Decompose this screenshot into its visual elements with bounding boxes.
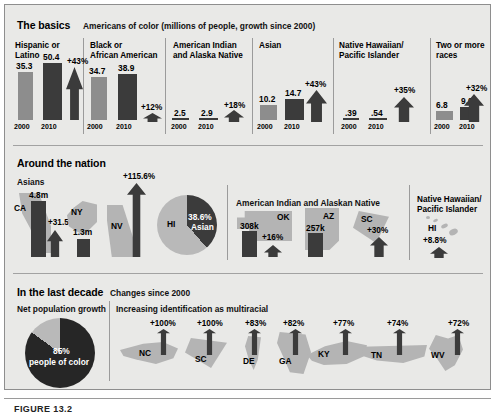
year-label-2010: 2010 (368, 123, 384, 130)
pie-pct-people-of-color: 85% (53, 346, 70, 356)
pie-share-value-hi: 38.6% (188, 212, 212, 222)
group-title-black-line2: African American (90, 51, 158, 60)
divider (409, 185, 410, 260)
bar-hispanic-2010 (43, 63, 62, 120)
state-shape-hi-island-4 (448, 227, 459, 236)
value-hispanic-2000: 35.3 (16, 61, 32, 71)
value-asian-2010: 14.7 (285, 88, 301, 98)
growth-asian: +43% (305, 80, 326, 89)
growth-nhpi: +35% (394, 86, 415, 95)
year-label-2000: 2000 (14, 123, 30, 130)
state-label-nv: NV (111, 221, 123, 231)
divider (333, 38, 334, 134)
state-shape-hi-island-1 (426, 216, 430, 219)
group-title-black-line1: Black or (90, 41, 122, 50)
state-label-az: AZ (323, 211, 334, 221)
year-label-2010: 2010 (41, 123, 57, 130)
arrow-black-growth (143, 113, 162, 122)
bar-ca-asians (31, 201, 46, 257)
year-label-2010: 2010 (284, 123, 300, 130)
decade-band-subtitle: Changes since 2000 (110, 288, 190, 298)
state-shape-nv (107, 205, 137, 257)
group-title-two-or-more: Two or more races (436, 41, 498, 60)
group-title-aian: American Indian and Alaska Native (173, 41, 255, 60)
growth-nv-asians: +115.6% (123, 172, 155, 181)
group-title-black: Black or African American (90, 41, 168, 60)
value-aian-2010: 2.9 (201, 108, 213, 118)
nhpi-nation-label-line2: Pacific Islander (417, 205, 477, 214)
growth-ok-aian: +16% (262, 233, 283, 242)
state-shape-ky (307, 341, 367, 365)
band-divider (13, 273, 483, 274)
value-ok-aian: 308k (240, 221, 259, 231)
bar-black-2010 (118, 74, 137, 120)
value-ny-asians: 1.3m (73, 227, 92, 237)
bar-hispanic-2000 (18, 72, 33, 120)
value-nhpi-2000: .39 (345, 108, 357, 118)
nation-band-title: Around the nation (17, 157, 106, 169)
bar-ny-asians (77, 239, 90, 257)
value-black-2000: 34.7 (89, 66, 105, 76)
group-title-nhpi-line1: Native Hawaiian/ (339, 41, 404, 50)
growth-ga: +82% (283, 319, 304, 328)
state-label-ok: OK (277, 212, 290, 222)
group-title-aian-line1: American Indian (173, 41, 237, 50)
group-title-asian: Asian (259, 41, 281, 51)
year-label-2000: 2000 (341, 123, 357, 130)
state-label-tn: TN (371, 350, 382, 360)
year-label-2000: 2000 (171, 123, 187, 130)
state-label-wv: WV (431, 350, 445, 360)
value-ca-asians: 4.8m (29, 190, 48, 200)
state-label-ga: GA (279, 356, 292, 366)
growth-nc: +100% (150, 319, 176, 328)
value-two-or-more-2000: 6.8 (436, 100, 448, 110)
growth-black: +12% (141, 103, 162, 112)
bar-asian-2010 (285, 99, 304, 120)
arrow-hispanic-growth (66, 67, 83, 120)
divider (109, 301, 110, 381)
growth-two-or-more: +32% (466, 84, 487, 93)
year-label-2000: 2000 (87, 123, 103, 130)
year-label-2010: 2010 (116, 123, 132, 130)
caption-divider (4, 398, 491, 399)
state-label-sc-multiracial: SC (195, 354, 207, 364)
pie-label-people-of-color: people of color (29, 357, 89, 367)
bar-two-or-more-2000 (436, 111, 453, 120)
growth-tn: +74% (387, 319, 408, 328)
arrow-aian-growth (224, 110, 244, 122)
state-label-de: DE (243, 356, 255, 366)
growth-sc-multiracial: +100% (197, 319, 223, 328)
growth-wv: +72% (448, 319, 469, 328)
state-label-hi-nhpi: HI (428, 223, 436, 233)
net-growth-label: Net population growth (17, 304, 106, 314)
infographic-figure: The basics Americans of color (millions … (4, 4, 491, 390)
bar-black-2000 (91, 77, 107, 120)
nhpi-nation-label-line1: Native Hawaiian/ (417, 195, 482, 204)
band-divider (13, 145, 483, 146)
growth-hi-nhpi: +8.8% (423, 236, 446, 245)
bar-aian-2010 (199, 118, 218, 120)
nhpi-nation-label: Native Hawaiian/ Pacific Islander (417, 195, 491, 214)
bar-nhpi-2000 (343, 118, 359, 120)
pie-share-label-hi: Asian (191, 222, 214, 232)
figure-caption: FIGURE 13.2 (14, 404, 72, 414)
arrow-asian-growth (306, 90, 327, 122)
growth-aian: +18% (224, 101, 245, 110)
basics-band-title: The basics (17, 19, 70, 31)
state-label-sc: SC (361, 214, 373, 224)
year-label-2010: 2010 (459, 123, 475, 130)
group-title-nhpi-line2: Pacific Islander (339, 51, 399, 60)
arrow-nhpi-growth (394, 97, 414, 122)
year-label-2000: 2000 (434, 123, 450, 130)
bar-nhpi-2010 (369, 118, 387, 120)
aian-nation-label: American Indian and Alaskan Native (236, 198, 380, 208)
basics-band-subtitle: Americans of color (millions of people, … (83, 21, 315, 31)
state-label-nc: NC (139, 348, 151, 358)
growth-de: +83% (245, 319, 266, 328)
year-label-2010: 2010 (198, 123, 214, 130)
growth-sc-aian: +30% (367, 226, 388, 235)
asians-label: Asians (17, 177, 44, 187)
value-nhpi-2010: .54 (371, 108, 383, 118)
multiracial-label: Increasing identification as multiracial (116, 304, 268, 314)
divider (227, 185, 228, 260)
